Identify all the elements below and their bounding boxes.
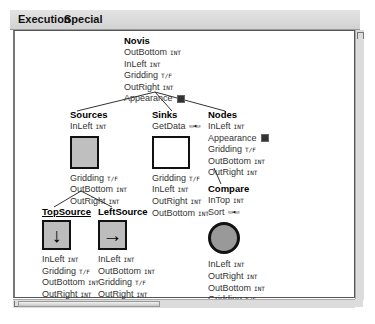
int-tag: INT: [137, 291, 148, 298]
int-tag: INT: [150, 61, 161, 68]
tf-tag: T/F: [135, 279, 146, 286]
prop-outbottom[interactable]: OutBottomINT: [70, 184, 127, 196]
prop-inleft[interactable]: InLeftINT: [152, 184, 209, 196]
resize-corner[interactable]: [355, 299, 363, 307]
prop-outbottom[interactable]: OutBottomINT: [152, 208, 209, 220]
prop-inleft[interactable]: InLeftINT: [42, 254, 99, 266]
appearance-icon: [261, 134, 269, 142]
arrow-down-icon: ↓: [52, 225, 62, 245]
prop-gridding[interactable]: GriddingT/F: [208, 144, 269, 156]
int-tag: INT: [170, 49, 181, 56]
int-tag: INT: [254, 158, 265, 165]
node-title: LeftSource: [98, 206, 155, 218]
node-title: Sources: [70, 109, 127, 121]
prop-appearance[interactable]: Appearance: [208, 133, 269, 145]
prop-appearance[interactable]: Appearance: [124, 93, 185, 105]
int-tag: INT: [116, 186, 127, 193]
node-shape-square: [152, 136, 190, 169]
int-tag: INT: [96, 123, 107, 130]
node-title: TopSource: [42, 206, 99, 218]
prop-outright[interactable]: OutRightINT: [124, 82, 185, 94]
prop-inleft[interactable]: InLeftINT: [208, 259, 265, 271]
prop-inleft[interactable]: InLeftINT: [124, 59, 185, 71]
prop-gridding[interactable]: GriddingT/F: [124, 70, 185, 82]
prop-outright[interactable]: OutRightINT: [208, 167, 269, 179]
prop-gridding[interactable]: GriddingT/F: [42, 266, 99, 278]
int-tag: INT: [68, 256, 79, 263]
int-tag: INT: [234, 261, 245, 268]
node-novis[interactable]: Novis OutBottomINT InLeftINT GriddingT/F…: [124, 35, 185, 105]
int-tag: INT: [109, 198, 120, 205]
horizontal-scroll-thumb[interactable]: [18, 301, 160, 307]
int-tag: INT: [233, 197, 244, 204]
int-tag: INT: [144, 268, 155, 275]
node-title: Nodes: [208, 109, 269, 121]
prop-inleft[interactable]: InLeftINT: [98, 254, 155, 266]
tf-tag: T/F: [245, 146, 256, 153]
node-title: Novis: [124, 35, 185, 47]
int-tag: INT: [124, 256, 135, 263]
node-shape-square: →: [98, 220, 127, 250]
prop-inleft[interactable]: InLeftINT: [70, 121, 127, 133]
tf-tag: T/F: [107, 175, 118, 182]
node-shape-square: [70, 136, 99, 169]
node-leftsource[interactable]: LeftSource → InLeftINT OutBottomINT Grid…: [98, 206, 155, 300]
prop-gridding[interactable]: GriddingT/F: [70, 173, 127, 185]
node-sources[interactable]: Sources InLeftINT GriddingT/F OutBottomI…: [70, 109, 127, 207]
node-topsource[interactable]: TopSource ↓ InLeftINT GriddingT/F OutBot…: [42, 206, 99, 300]
node-title: Sinks: [152, 109, 209, 121]
int-tag: INT: [81, 291, 92, 298]
int-tag: INT: [178, 186, 189, 193]
prop-outbottom[interactable]: OutBottomINT: [98, 266, 155, 278]
scroll-up-icon[interactable]: [357, 32, 364, 39]
node-compare[interactable]: Compare InTopINT Sort▭◂▭ InLeftINT OutRi…: [208, 183, 265, 306]
prop-outbottom[interactable]: OutBottomINT: [124, 47, 185, 59]
int-tag: INT: [163, 84, 174, 91]
node-shape-circle: [208, 222, 240, 254]
link-icon: ▭◂▭: [190, 121, 200, 133]
int-tag: INT: [254, 285, 265, 292]
prop-outright[interactable]: OutRightINT: [152, 196, 209, 208]
arrow-right-icon: →: [103, 225, 123, 245]
prop-intop[interactable]: InTopINT: [208, 195, 265, 207]
int-tag: INT: [191, 198, 202, 205]
node-title: Compare: [208, 183, 265, 195]
int-tag: INT: [247, 273, 258, 280]
prop-getdata[interactable]: GetData▭◂▭: [152, 121, 209, 133]
prop-outbottom[interactable]: OutBottomINT: [208, 283, 265, 295]
prop-outbottom[interactable]: OutBottomINT: [208, 156, 269, 168]
node-sinks[interactable]: Sinks GetData▭◂▭ GriddingT/F InLeftINT O…: [152, 109, 209, 219]
prop-outbottom[interactable]: OutBottomINT: [42, 277, 99, 289]
tf-tag: T/F: [189, 175, 200, 182]
tf-tag: T/F: [161, 72, 172, 79]
prop-inleft[interactable]: InLeftINT: [208, 121, 269, 133]
prop-gridding[interactable]: GriddingT/F: [98, 277, 155, 289]
node-shape-square: ↓: [42, 220, 71, 250]
vertical-scrollbar[interactable]: [355, 30, 364, 300]
appearance-icon: [177, 95, 185, 103]
prop-gridding[interactable]: GriddingT/F: [152, 173, 209, 185]
prop-sort[interactable]: Sort▭◂▭: [208, 207, 265, 219]
int-tag: INT: [247, 169, 258, 176]
tf-tag: T/F: [79, 268, 90, 275]
link-icon: ▭◂▭: [229, 207, 239, 219]
horizontal-scrollbar[interactable]: [13, 299, 355, 308]
int-tag: INT: [234, 123, 245, 130]
prop-outright[interactable]: OutRightINT: [208, 271, 265, 283]
node-nodes[interactable]: Nodes InLeftINT Appearance GriddingT/F O…: [208, 109, 269, 179]
